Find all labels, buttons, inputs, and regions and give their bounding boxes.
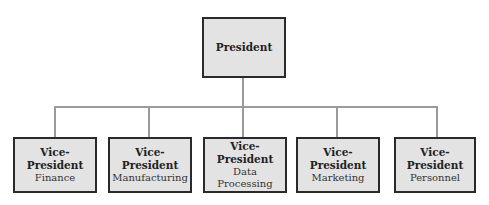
vp-marketing-box: Vice-President Marketing [296, 137, 380, 193]
vp-personnel-title: Vice-President [396, 146, 474, 172]
vp-manufacturing-department: Manufacturing [112, 172, 188, 184]
vp-finance-box: Vice-President Finance [13, 137, 97, 193]
vp-data-processing-department-line1: Data [233, 166, 257, 178]
connector-child-2 [148, 106, 150, 138]
president-box: President [202, 17, 286, 78]
connector-root-vertical [242, 78, 244, 108]
vp-data-processing-department-line2: Processing [217, 178, 272, 190]
vp-finance-department: Finance [35, 172, 76, 184]
vp-manufacturing-title: Vice-President [110, 146, 190, 172]
vp-manufacturing-box: Vice-President Manufacturing [108, 137, 192, 193]
vp-personnel-department: Personnel [410, 172, 460, 184]
connector-horizontal [54, 106, 438, 108]
connector-child-1 [54, 106, 56, 138]
connector-child-4 [336, 106, 338, 138]
vp-data-processing-box: Vice-President Data Processing [203, 137, 287, 193]
president-title: President [216, 41, 273, 54]
vp-personnel-box: Vice-President Personnel [394, 137, 476, 193]
vp-finance-title: Vice-President [15, 146, 95, 172]
vp-marketing-department: Marketing [311, 172, 364, 184]
connector-child-3 [242, 106, 244, 138]
vp-data-processing-title: Vice-President [205, 140, 285, 166]
connector-child-5 [436, 106, 438, 138]
vp-marketing-title: Vice-President [298, 146, 378, 172]
